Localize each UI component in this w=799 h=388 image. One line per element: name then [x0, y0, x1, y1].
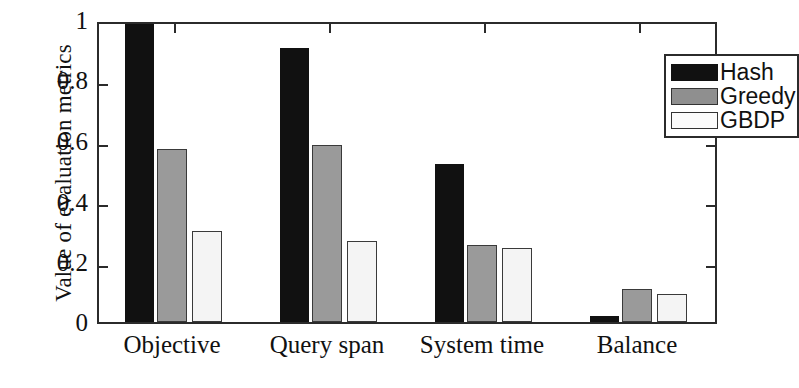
top-tick-mark-query-span	[329, 24, 331, 33]
y-tick-mark-0.6	[99, 145, 108, 147]
legend-swatch-gbdp-icon	[671, 112, 718, 129]
bar-balance-hash	[590, 316, 619, 322]
bar-system-time-greedy	[467, 245, 497, 322]
x-tick-label-system-time: System time	[412, 332, 552, 357]
legend-label-gbdp: GBDP	[720, 109, 785, 132]
plot-area: Hash Greedy GBDP	[97, 22, 717, 324]
legend-swatch-greedy-icon	[671, 88, 718, 105]
top-tick-mark-system-time	[484, 24, 486, 33]
right-tick-mark-0.4	[706, 205, 715, 207]
bar-objective-greedy	[157, 149, 187, 322]
bar-system-time-hash	[435, 164, 464, 322]
bar-query-span-hash	[280, 48, 309, 322]
legend-label-hash: Hash	[720, 61, 774, 84]
y-tick-mark-0.4	[99, 205, 108, 207]
top-tick-mark-balance	[639, 24, 641, 33]
legend-item-hash: Hash	[671, 60, 792, 84]
x-tick-label-query-span: Query span	[257, 332, 397, 357]
legend-label-greedy: Greedy	[720, 85, 795, 108]
y-tick-mark-0.8	[99, 84, 108, 86]
legend-item-greedy: Greedy	[671, 84, 792, 108]
legend: Hash Greedy GBDP	[664, 54, 799, 138]
top-tick-mark-objective	[174, 24, 176, 33]
bar-query-span-gbdp	[347, 241, 377, 322]
x-tick-label-balance: Balance	[567, 332, 707, 357]
bar-query-span-greedy	[312, 145, 342, 322]
legend-item-gbdp: GBDP	[671, 108, 792, 132]
bar-balance-gbdp	[657, 294, 687, 322]
bar-balance-greedy	[622, 289, 652, 322]
y-axis-title: Value of evaluation metrics	[51, 13, 77, 333]
legend-swatch-hash-icon	[671, 64, 718, 81]
x-tick-label-objective: Objective	[102, 332, 242, 357]
right-tick-mark-0.6	[706, 145, 715, 147]
bar-system-time-gbdp	[502, 248, 532, 322]
y-tick-mark-0.2	[99, 266, 108, 268]
bar-objective-gbdp	[192, 231, 222, 322]
right-tick-mark-0.2	[706, 266, 715, 268]
bar-objective-hash	[125, 24, 154, 322]
